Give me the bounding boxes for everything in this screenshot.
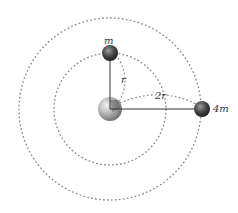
label-m: m <box>104 36 113 46</box>
orbit-diagram <box>0 0 238 213</box>
label-r: r <box>121 75 126 85</box>
label-2r: 2r <box>155 91 166 101</box>
satellite-m <box>102 45 118 61</box>
satellite-4m <box>194 101 210 117</box>
label-4m: 4m <box>213 104 229 114</box>
